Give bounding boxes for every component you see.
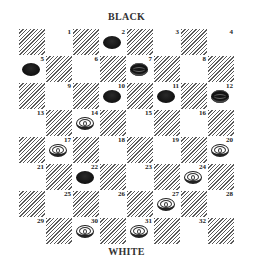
square-23[interactable]: 23 [126,163,153,190]
square-number: 7 [149,55,153,63]
square-13[interactable]: 13 [18,109,45,136]
black-checker-piece[interactable] [103,90,121,103]
hatched-square [19,191,45,217]
square-number: 14 [91,109,98,117]
square-30[interactable]: 30 [72,217,99,244]
square-number: 5 [41,55,45,63]
black-checker-piece[interactable] [76,171,94,184]
white-checker-piece[interactable] [211,144,229,157]
square-6[interactable]: 6 [72,55,99,82]
square-20[interactable]: 20 [207,136,234,163]
square-number: 19 [172,136,179,144]
square-3[interactable]: 3 [153,28,180,55]
square-number: 3 [176,28,180,36]
square-32[interactable]: 32 [180,217,207,244]
square-number: 20 [226,136,233,144]
black-side-label: BLACK [0,11,253,22]
square-number: 25 [64,190,71,198]
square-number: 8 [203,55,207,63]
square-26[interactable]: 26 [99,190,126,217]
square-7[interactable]: 7 [126,55,153,82]
square-number: 30 [91,217,98,225]
black-king-piece[interactable] [211,90,229,103]
hatched-square [154,56,180,82]
square-2[interactable]: 2 [99,28,126,55]
square-24[interactable]: 24 [180,163,207,190]
hatched-square [100,110,126,136]
square-16[interactable]: 16 [180,109,207,136]
white-checker-piece[interactable] [184,171,202,184]
square-25[interactable]: 25 [45,190,72,217]
hatched-square [46,110,72,136]
square-19[interactable]: 19 [153,136,180,163]
checkerboard: 1234567891011121314151617181920212223242… [18,28,234,244]
white-checker-piece[interactable] [157,198,175,211]
square-number: 31 [145,217,152,225]
hatched-square [46,56,72,82]
hatched-square [100,56,126,82]
hatched-square [73,29,99,55]
black-checker-piece[interactable] [103,36,121,49]
square-number: 18 [118,136,125,144]
square-number: 4 [230,28,234,36]
black-checker-piece[interactable] [157,90,175,103]
square-8[interactable]: 8 [180,55,207,82]
hatched-square [127,29,153,55]
white-checker-piece[interactable] [76,225,94,238]
hatched-square [208,164,234,190]
hatched-square [127,191,153,217]
hatched-square [181,191,207,217]
hatched-square [19,83,45,109]
square-28[interactable]: 28 [207,190,234,217]
hatched-square [208,56,234,82]
square-21[interactable]: 21 [18,163,45,190]
square-31[interactable]: 31 [126,217,153,244]
hatched-square [181,137,207,163]
hatched-square [46,218,72,244]
square-17[interactable]: 17 [45,136,72,163]
hatched-square [154,218,180,244]
square-22[interactable]: 22 [72,163,99,190]
hatched-square [208,110,234,136]
square-number: 12 [226,82,233,90]
square-number: 32 [199,217,206,225]
black-checker-piece[interactable] [22,63,40,76]
white-checker-piece[interactable] [76,117,94,130]
square-number: 11 [172,82,179,90]
square-18[interactable]: 18 [99,136,126,163]
square-10[interactable]: 10 [99,82,126,109]
square-number: 24 [199,163,206,171]
square-4[interactable]: 4 [207,28,234,55]
hatched-square [73,191,99,217]
hatched-square [181,83,207,109]
hatched-square [100,218,126,244]
square-number: 10 [118,82,125,90]
square-number: 13 [37,109,44,117]
square-15[interactable]: 15 [126,109,153,136]
square-number: 15 [145,109,152,117]
black-king-piece[interactable] [130,63,148,76]
hatched-square [208,218,234,244]
square-number: 17 [64,136,71,144]
square-number: 27 [172,190,179,198]
hatched-square [127,83,153,109]
square-5[interactable]: 5 [18,55,45,82]
hatched-square [73,83,99,109]
square-number: 2 [122,28,126,36]
square-number: 9 [68,82,72,90]
hatched-square [127,137,153,163]
white-checker-piece[interactable] [130,225,148,238]
square-number: 21 [37,163,44,171]
square-12[interactable]: 12 [207,82,234,109]
square-9[interactable]: 9 [45,82,72,109]
hatched-square [46,164,72,190]
square-number: 28 [226,190,233,198]
square-14[interactable]: 14 [72,109,99,136]
square-27[interactable]: 27 [153,190,180,217]
square-29[interactable]: 29 [18,217,45,244]
hatched-square [181,29,207,55]
white-checker-piece[interactable] [49,144,67,157]
square-11[interactable]: 11 [153,82,180,109]
hatched-square [154,110,180,136]
square-1[interactable]: 1 [45,28,72,55]
